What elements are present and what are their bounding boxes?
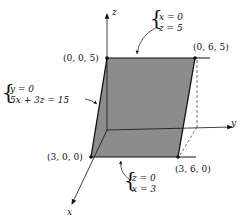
y-axis-label: y (231, 118, 236, 128)
x-axis-label: x (67, 207, 72, 217)
x-axis (72, 130, 107, 204)
top-annotation-line1: x = 0 (159, 12, 183, 22)
bottom-annotation-line2: x = 3 (132, 184, 156, 194)
left-annotation-line2: 5x + 3z = 15 (10, 95, 69, 105)
vertex-065 (193, 56, 197, 60)
point-label-360: (3, 6, 0) (175, 164, 211, 174)
left-annotation-arrow (85, 99, 97, 104)
bottom-annotation-line1: z = 0 (132, 173, 156, 183)
z-axis-label: z (112, 7, 117, 17)
point-label-300: (3, 0, 0) (47, 152, 83, 162)
point-label-065: (0, 6, 5) (193, 42, 229, 52)
diagram-canvas: z y x (0, 0, 5) (0, 6, 5) (3, 0, 0) (3, … (0, 0, 241, 219)
vertex-005 (105, 56, 109, 60)
top-annotation-arrow (137, 27, 157, 54)
plane-diagram (0, 0, 241, 219)
left-annotation-line1: y = 0 (10, 84, 34, 94)
vertex-360 (176, 155, 180, 159)
point-label-005: (0, 0, 5) (63, 53, 99, 63)
vertex-300 (89, 155, 93, 159)
top-annotation-line2: z = 5 (159, 23, 183, 33)
